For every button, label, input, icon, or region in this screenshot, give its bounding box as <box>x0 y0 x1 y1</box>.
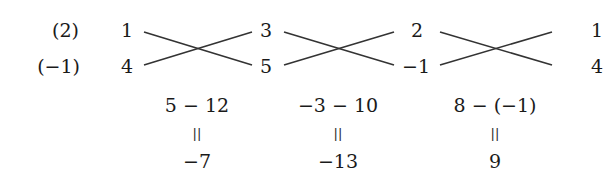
col1-bottom: 4 <box>121 55 133 77</box>
result3-equals: || <box>491 123 500 145</box>
result3-expression: 8 − (−1) <box>454 94 537 116</box>
col3-top: 2 <box>411 19 423 41</box>
col1-top: 1 <box>121 19 133 41</box>
col4-top: 1 <box>591 19 603 41</box>
result2-expression: −3 − 10 <box>298 94 378 116</box>
col4-bottom: 4 <box>591 55 603 77</box>
cross-lines <box>0 0 605 176</box>
result1-expression: 5 − 12 <box>165 94 229 116</box>
col3-bottom: −1 <box>402 55 430 77</box>
result1-value: −7 <box>183 150 211 172</box>
result2-value: −13 <box>318 150 358 172</box>
result3-value: 9 <box>489 150 501 172</box>
result1-equals: || <box>193 123 202 145</box>
row-label-bottom: (−1) <box>37 55 80 77</box>
col2-bottom: 5 <box>260 55 272 77</box>
result2-equals: || <box>334 123 343 145</box>
row-label-top: (2) <box>52 19 79 41</box>
col2-top: 3 <box>260 19 272 41</box>
